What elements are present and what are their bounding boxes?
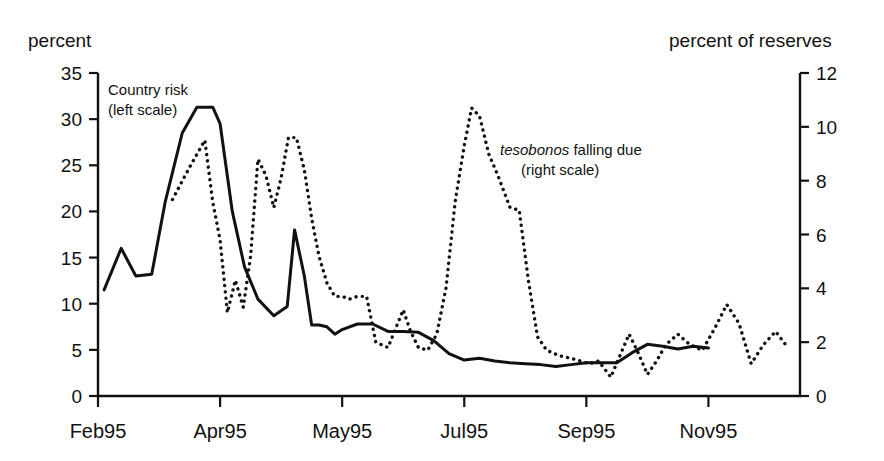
annotation-tesobonos-line1: tesobonos falling due: [500, 141, 642, 158]
annotation-tesobonos: tesobonos falling due (right scale): [500, 141, 642, 178]
annotation-country-risk-line1: Country risk: [108, 81, 189, 98]
y-tick-label: 15: [61, 248, 82, 269]
x-tick-label: Feb95: [70, 420, 127, 442]
annotation-country-risk: Country risk (left scale): [108, 81, 189, 118]
y-tick-label: 35: [61, 63, 82, 84]
x-tick-label: May95: [312, 420, 372, 442]
annotation-tesobonos-italic: tesobonos: [500, 141, 570, 158]
annotation-tesobonos-line2: (right scale): [521, 161, 599, 178]
y2-tick-label: 2: [816, 332, 827, 353]
chart-tick-labels: 05101520253035024681012Feb95Apr95May95Ju…: [61, 63, 837, 442]
y2-tick-label: 10: [816, 117, 837, 138]
series-line-tesobonos: [172, 108, 787, 377]
y-tick-label: 5: [71, 340, 82, 361]
chart-page: percent percent of reserves 051015202530…: [0, 0, 884, 461]
chart-axes: [89, 73, 809, 407]
x-tick-label: Apr95: [193, 420, 246, 442]
y-tick-label: 25: [61, 155, 82, 176]
y-tick-label: 30: [61, 109, 82, 130]
x-tick-label: Sep95: [557, 420, 615, 442]
annotation-country-risk-line2: (left scale): [108, 101, 177, 118]
y-tick-label: 0: [71, 386, 82, 407]
y2-tick-label: 12: [816, 63, 837, 84]
chart-series: [104, 107, 788, 377]
x-tick-label: Jul95: [440, 420, 488, 442]
y2-tick-label: 4: [816, 278, 827, 299]
y2-tick-label: 8: [816, 171, 827, 192]
chart-plot: 05101520253035024681012Feb95Apr95May95Ju…: [0, 0, 884, 461]
y2-tick-label: 0: [816, 386, 827, 407]
y-tick-label: 10: [61, 294, 82, 315]
y2-tick-label: 6: [816, 225, 827, 246]
y-tick-label: 20: [61, 201, 82, 222]
annotation-tesobonos-rest: falling due: [569, 141, 642, 158]
x-tick-label: Nov95: [680, 420, 738, 442]
